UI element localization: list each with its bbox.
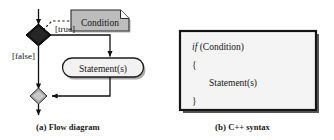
- caption-cpp-syntax: (b) C++ syntax: [215, 122, 270, 132]
- statement-action-node: Statement(s): [63, 58, 146, 80]
- merge-diamond: [30, 88, 47, 104]
- figure-container: Condition [true] [false] Statement(s): [0, 0, 334, 140]
- statement-node-label: Statement(s): [79, 64, 127, 75]
- caption-flow-diagram: (a) Flow diagram: [36, 122, 100, 132]
- true-branch-label: [true]: [55, 24, 75, 34]
- decision-diamond: [26, 24, 51, 46]
- code-line-1: if (Condition): [192, 42, 244, 53]
- true-branch-edge: [51, 35, 110, 57]
- decision-diamond-inner: [29, 27, 49, 44]
- code-line-1-rest: (Condition): [197, 42, 244, 53]
- code-line-2: {: [192, 60, 197, 70]
- code-line-4: }: [192, 96, 197, 106]
- code-box-panel: if (Condition) { Statement(s) }: [180, 31, 319, 113]
- caption-b-text: C++ syntax: [228, 122, 270, 132]
- caption-a-text: Flow diagram: [49, 122, 100, 132]
- caption-a-label: (a): [36, 122, 47, 132]
- flow-diagram-panel: Condition [true] [false] Statement(s): [12, 9, 146, 115]
- figure-svg: Condition [true] [false] Statement(s): [0, 0, 334, 140]
- condition-note: Condition: [71, 10, 131, 33]
- code-line-3: Statement(s): [209, 78, 257, 89]
- caption-b-label: (b): [215, 122, 226, 132]
- false-branch-label: [false]: [12, 51, 35, 61]
- statement-to-merge-edge: [52, 77, 110, 96]
- condition-note-label: Condition: [81, 18, 119, 28]
